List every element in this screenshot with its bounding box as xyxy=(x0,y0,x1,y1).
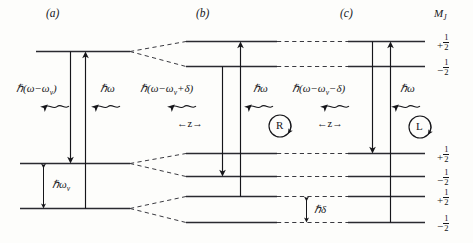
panel-label-a: (a) xyxy=(46,7,59,19)
correlation-dashed-lines xyxy=(130,42,348,223)
mj-value-lower-plus: +12 xyxy=(437,188,449,206)
mj-fraction: 12 xyxy=(443,168,449,186)
mj-denominator: 2 xyxy=(443,155,449,164)
squiggle-b-emission xyxy=(172,106,196,108)
mj-fraction: 12 xyxy=(443,188,449,206)
label-vibrational-splitting: ℏωv xyxy=(52,178,70,193)
polarization-label-R: R xyxy=(276,119,283,131)
label-c-emitted-head: ℏ(ω−ω xyxy=(292,82,326,94)
panel-c-transitions xyxy=(373,42,391,223)
label-vib-symbol: ℏω xyxy=(52,178,67,190)
squiggle-c-absorption xyxy=(396,106,420,108)
panel-c-levels xyxy=(348,42,425,223)
mj-denominator: 2 xyxy=(443,178,449,187)
panel-label-b: (b) xyxy=(196,7,209,19)
dash-a-lower-to-b-plus xyxy=(130,197,186,209)
mj-column-header: MJ xyxy=(434,7,447,22)
mj-fraction: 12 xyxy=(443,214,449,232)
photon-squiggle-arrows xyxy=(45,106,420,108)
label-energy-c-emitted: ℏ(ω−ωv−δ) xyxy=(292,82,345,97)
squiggle-a-absorption xyxy=(96,106,120,108)
label-energy-a-emitted: ℏ(ω−ωv) xyxy=(16,82,57,97)
panel-b-transitions xyxy=(223,45,241,197)
dash-a-mid-to-b-minus xyxy=(130,164,186,177)
mj-value-mid-plus: +12 xyxy=(437,145,449,163)
dash-a-lower-to-b-minus xyxy=(130,209,186,223)
squiggle-b-absorption xyxy=(249,106,273,108)
label-c-emitted-tail: −δ) xyxy=(329,82,345,94)
dash-a-upper-to-b-plus xyxy=(130,42,186,52)
label-b-emitted-head: ℏ(ω−ω xyxy=(140,82,174,94)
panel-a-transitions xyxy=(71,52,86,209)
label-energy-a-absorbed: ℏω xyxy=(100,82,115,95)
label-direction-b: ←z→ xyxy=(177,118,203,129)
squiggle-a-emission xyxy=(45,106,69,108)
squiggle-c-emission xyxy=(325,106,349,108)
mj-denominator: 2 xyxy=(443,224,449,233)
polarization-label-L: L xyxy=(416,120,423,132)
mj-header-symbol: M xyxy=(434,7,443,19)
panel-label-c: (c) xyxy=(340,7,353,19)
panel-a-levels xyxy=(20,52,130,209)
panel-b-levels xyxy=(186,42,277,223)
mj-value-upper-minus: −12 xyxy=(437,58,449,76)
label-a-emitted-head: ℏ(ω−ω xyxy=(16,82,50,94)
mj-denominator: 2 xyxy=(443,198,449,207)
mj-fraction: 12 xyxy=(443,33,449,51)
label-zeeman-splitting: ℏδ xyxy=(314,203,326,216)
mj-denominator: 2 xyxy=(443,68,449,77)
label-a-emitted-tail: ) xyxy=(53,82,57,94)
mj-denominator: 2 xyxy=(443,43,449,52)
label-energy-b-absorbed: ℏω xyxy=(253,82,268,95)
label-energy-c-absorbed: ℏω xyxy=(400,82,415,95)
dash-a-mid-to-b-plus xyxy=(130,154,186,164)
figure-canvas: (a) (b) (c) MJ ℏ(ω−ωv) ℏω ℏ(ω−ωv+δ) ℏω ℏ… xyxy=(0,0,473,243)
mj-fraction: 12 xyxy=(443,145,449,163)
mj-fraction: 12 xyxy=(443,58,449,76)
energy-level-diagram xyxy=(0,0,473,243)
label-energy-b-emitted: ℏ(ω−ωv+δ) xyxy=(140,82,193,97)
label-b-emitted-tail: +δ) xyxy=(177,82,193,94)
mj-header-subscript: J xyxy=(443,13,446,22)
dash-a-upper-to-b-minus xyxy=(130,52,186,67)
mj-value-mid-minus: −12 xyxy=(437,168,449,186)
label-direction-c: ←z→ xyxy=(317,118,343,129)
label-vib-sub: v xyxy=(67,184,70,193)
mj-value-upper-plus: +12 xyxy=(437,33,449,51)
mj-value-lower-minus: −12 xyxy=(437,214,449,232)
